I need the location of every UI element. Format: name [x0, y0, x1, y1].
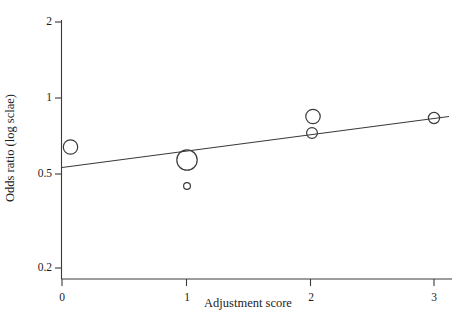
odds-ratio-scatter-figure: 2 1 0.5 0.2 0 1 2 3 Adjustment score Odd…	[0, 0, 459, 324]
data-point-x1-large	[177, 150, 197, 170]
y-axis-title: Odds ratio (log sclae)	[3, 94, 18, 202]
y-tick-label-2: 2	[26, 16, 52, 28]
data-point-x1-small	[184, 183, 191, 190]
y-tick-label-1: 1	[26, 92, 52, 104]
regression-line	[62, 117, 449, 168]
plot-canvas	[0, 0, 459, 324]
data-point-x0	[63, 140, 77, 154]
x-tick-label-0: 0	[59, 292, 65, 304]
y-tick-label-0-2: 0.2	[18, 262, 52, 274]
x-tick-label-3: 3	[431, 292, 437, 304]
data-point-x2-upper	[306, 109, 320, 123]
x-tick-label-1: 1	[184, 292, 190, 304]
x-tick-label-2: 2	[308, 292, 314, 304]
y-tick-label-0-5: 0.5	[18, 168, 52, 180]
data-point-x2-lower	[307, 128, 318, 139]
x-axis-title: Adjustment score	[204, 296, 292, 311]
